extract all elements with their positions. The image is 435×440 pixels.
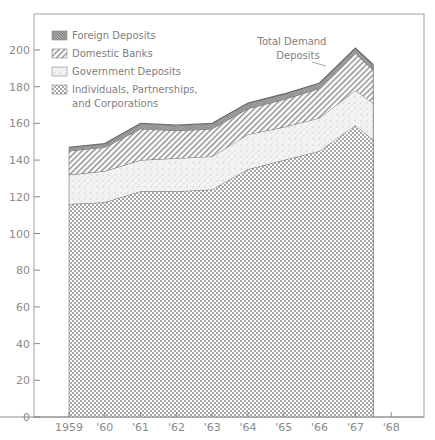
x-tick-label: '68 — [383, 421, 400, 434]
legend-item-foreign: Foreign Deposits — [52, 30, 156, 41]
legend-label: Government Deposits — [72, 66, 181, 77]
x-tick-label: '62 — [168, 421, 185, 434]
x-tick-label: '63 — [204, 421, 221, 434]
legend-label: Domestic Banks — [72, 48, 153, 59]
x-tick-label: '64 — [239, 421, 256, 434]
legend-item-individuals: Individuals, Partnerships, and Corporati… — [52, 84, 198, 109]
y-tick-label: 140 — [9, 154, 30, 167]
total-demand-annotation: Total Demand Deposits — [257, 36, 327, 66]
stacked-area-chart: 020406080100120140160180200 1959'60'61'6… — [0, 0, 435, 440]
y-tick-label: 20 — [16, 374, 30, 387]
y-tick-label: 160 — [9, 117, 30, 130]
legend: Foreign Deposits Domestic Banks Governme… — [52, 30, 198, 109]
legend-swatch-diagonal-hatch — [52, 49, 67, 58]
annotation-line2: Deposits — [276, 50, 319, 61]
y-axis: 020406080100120140160180200 — [9, 44, 40, 424]
y-tick-label: 200 — [9, 44, 30, 57]
y-tick-label: 100 — [9, 228, 30, 241]
x-tick-label: 1959 — [55, 421, 83, 434]
annotation-line1: Total Demand — [257, 36, 327, 47]
legend-label-line2: and Corporations — [72, 98, 158, 109]
x-tick-label: '60 — [96, 421, 113, 434]
y-tick-label: 120 — [9, 191, 30, 204]
legend-item-domestic: Domestic Banks — [52, 48, 153, 59]
legend-item-government: Government Deposits — [52, 66, 181, 77]
x-tick-label: '61 — [132, 421, 149, 434]
x-tick-label: '65 — [275, 421, 292, 434]
x-tick-label: '66 — [311, 421, 328, 434]
legend-swatch-crosshatch — [52, 85, 67, 94]
y-tick-label: 60 — [16, 301, 30, 314]
y-tick-label: 180 — [9, 81, 30, 94]
legend-swatch-stipple — [52, 67, 67, 76]
y-tick-label: 80 — [16, 264, 30, 277]
x-tick-label: '67 — [347, 421, 364, 434]
legend-swatch-dense-hatch — [52, 31, 67, 40]
legend-label: Individuals, Partnerships, — [72, 84, 198, 95]
annotation-leader-line — [312, 62, 326, 66]
y-tick-label: 40 — [16, 338, 30, 351]
legend-label: Foreign Deposits — [72, 30, 156, 41]
